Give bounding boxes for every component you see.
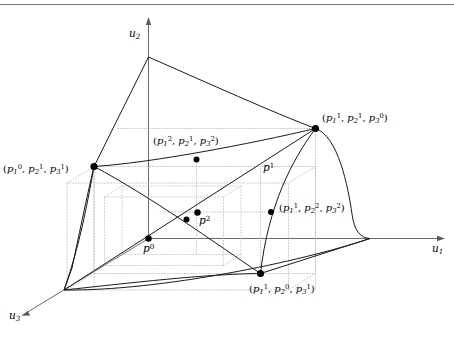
tuple-c-c0-sub: 1: [163, 140, 167, 148]
tuple-c-c1-base: p: [178, 135, 184, 146]
axis-u2-arrow: [146, 17, 151, 25]
axis-label-u3: u3: [9, 310, 20, 321]
tuple-l-c0-sub: 1: [13, 168, 17, 176]
dot-vertex-110: [312, 125, 319, 132]
tuple-ur-c2-sup: 0: [379, 112, 383, 120]
dotted-guide-box-inner: [105, 186, 242, 266]
edge-u3foot-to-u1foot: [64, 239, 370, 291]
tuple-l-c1-sup: 1: [39, 163, 43, 171]
vertex-label-p1-p2-p3-center: (p12, p21, p32): [153, 136, 219, 146]
tuple-c-c1-sup: 1: [189, 135, 193, 143]
tuple-rm-c0-sup: 1: [294, 202, 298, 210]
tuple-ur-c1-base: p: [347, 112, 353, 123]
point-label-p2-base: p: [199, 214, 206, 226]
axis-label-u2: u2: [129, 28, 140, 39]
tuple-l-c1-base: p: [28, 163, 34, 174]
axis-label-u1-base: u: [432, 242, 439, 254]
point-label-p1: p1: [263, 162, 274, 173]
axis-label-u3-base: u: [9, 309, 16, 321]
dot-origin-p0: [145, 235, 151, 241]
guide-outer-edge-a: [67, 167, 94, 184]
dot-vertex-101: [257, 270, 264, 277]
point-label-p0-base: p: [143, 242, 150, 254]
axis-u3-line: [26, 239, 149, 314]
dot-vertex-212: [194, 157, 200, 163]
axis-u1-arrow: [437, 236, 445, 241]
tuple-b-c2-sup: 1: [306, 283, 310, 291]
figure-canvas: u2 u1 u3 (p11, p21, p30) (p10, p21, p31)…: [0, 0, 454, 340]
tuple-rm-c2-sup: 2: [336, 202, 340, 210]
tuple-ur-c0-sup: 1: [337, 112, 341, 120]
axis-label-u2-base: u: [129, 27, 136, 39]
guide-inner-edge-a: [105, 186, 123, 197]
tuple-ur-c1-sup: 1: [358, 112, 362, 120]
tuple-ur-c0-sub: 1: [332, 117, 336, 125]
tuple-b-c0-sub: 1: [259, 288, 263, 296]
point-label-p0: p0: [143, 243, 154, 254]
point-label-p1-sup: 1: [270, 161, 275, 170]
vertex-label-p1-p2-p3-bottom: (p11, p20, p31): [249, 284, 315, 294]
axis-label-u1-sub: 1: [439, 247, 444, 256]
vertex-label-p1-p2-p3-upper-right: (p11, p21, p30): [322, 113, 388, 123]
tuple-rm-c0-sub: 1: [289, 207, 293, 215]
tuple-b-c1-base: p: [274, 283, 280, 294]
edge-u3foot-to-v101: [64, 274, 261, 291]
tuple-rm-c1-base: p: [304, 202, 310, 213]
guide-inner-edge-b: [224, 186, 242, 197]
dot-vertex-122: [268, 209, 274, 215]
edge-v011-to-u3foot-inner: [64, 167, 94, 291]
tuple-rm-c1-sup: 2: [315, 202, 319, 210]
tuple-b-c1-sup: 0: [285, 283, 289, 291]
vertex-label-p1-p2-p3-right-mid: (p11, p22, p32): [279, 203, 345, 213]
axis-label-u1: u1: [432, 243, 443, 254]
point-label-p1-base: p: [263, 161, 270, 173]
vertex-label-p1-p2-p3-left: (p10, p21, p31): [3, 164, 69, 174]
point-label-p2: p2: [199, 215, 210, 226]
dot-vertex-011: [90, 163, 97, 170]
edge-apex-to-v011: [94, 57, 149, 167]
point-label-p2-sup: 2: [206, 214, 211, 223]
tuple-c-c2-sup: 2: [210, 135, 214, 143]
axis-label-u2-sub: 2: [136, 32, 141, 41]
surface-wireframe: [64, 57, 370, 290]
tuple-b-c0-sup: 1: [264, 283, 268, 291]
tuple-l-c0-sup: 0: [18, 163, 22, 171]
dotted-guide-box-outer: [67, 167, 316, 291]
tuple-c-c0-sup: 2: [168, 135, 172, 143]
guide-outer-edge-b: [289, 167, 316, 184]
point-label-p0-sup: 0: [150, 242, 155, 251]
edge-v110-to-u1-foot: [316, 129, 371, 239]
tuple-l-c2-sup: 1: [60, 163, 64, 171]
dot-interior-lower: [184, 217, 190, 223]
edge-v011-to-v101-mid: [94, 167, 261, 274]
edge-apex-to-v110: [149, 57, 316, 129]
axis-label-u3-sub: 3: [16, 314, 21, 323]
edge-v110-to-v101-scurve: [261, 129, 316, 274]
guide-inner-edge-c: [224, 255, 242, 266]
